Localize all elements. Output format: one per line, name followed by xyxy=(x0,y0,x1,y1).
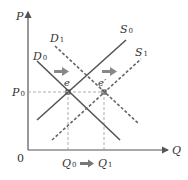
y-axis-label: P xyxy=(15,10,24,23)
q1-label: Q1 xyxy=(98,157,113,170)
supply-curve-s0 xyxy=(37,40,126,120)
s1-label: S1 xyxy=(135,46,148,59)
x-axis-label: Q xyxy=(172,144,181,157)
d0-label: D0 xyxy=(32,50,47,63)
quantity-shift-arrow-icon xyxy=(80,160,94,168)
d1-label: D1 xyxy=(49,32,64,45)
point-e-label: e xyxy=(64,77,70,88)
q0-label: Q0 xyxy=(62,157,77,170)
s0-label: S0 xyxy=(120,23,133,36)
point-e-prime-label: e′ xyxy=(98,77,107,88)
supply-demand-diagram: P Q 0 D0 D1 S0 S1 e e′ P0 Q0 Q1 xyxy=(0,0,188,180)
demand-shift-arrow-icon xyxy=(54,67,69,76)
origin-label: 0 xyxy=(17,152,24,165)
p0-label: P0 xyxy=(11,86,25,99)
supply-shift-arrow-icon xyxy=(102,67,117,76)
